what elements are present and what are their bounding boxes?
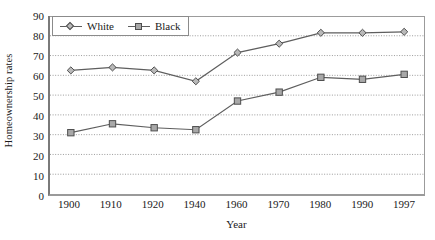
data-point-marker[interactable] xyxy=(359,76,365,82)
series-black xyxy=(68,71,408,136)
x-axis-tick-label: 1940 xyxy=(184,199,206,210)
x-axis-tick-label: 1980 xyxy=(309,199,331,210)
data-point-marker[interactable] xyxy=(68,130,74,136)
y-axis-tick-label: 60 xyxy=(33,71,44,82)
data-point-marker[interactable] xyxy=(109,121,115,127)
y-axis-tick-label: 80 xyxy=(33,31,44,42)
y-axis-tick-label: 30 xyxy=(33,131,44,142)
data-point-marker[interactable] xyxy=(151,67,158,74)
y-axis-tick-label: 50 xyxy=(33,91,44,102)
diamond-marker-icon xyxy=(60,22,82,31)
y-axis-tick-label: 70 xyxy=(33,51,44,62)
y-axis-tick-label: 90 xyxy=(33,11,44,22)
x-axis-tick-label: 1997 xyxy=(393,199,415,210)
data-point-marker[interactable] xyxy=(234,49,241,56)
legend-entry-white[interactable]: White xyxy=(60,21,114,32)
data-point-marker[interactable] xyxy=(318,74,324,80)
data-point-marker[interactable] xyxy=(359,29,366,36)
x-axis-tick-label: 1990 xyxy=(351,199,373,210)
line-chart: Homeownership rates 9080706050403020100 … xyxy=(0,0,435,240)
y-axis-tick-label: 10 xyxy=(33,171,44,182)
legend-entry-black[interactable]: Black xyxy=(128,21,181,32)
y-axis-title: Homeownership rates xyxy=(0,0,18,200)
y-axis-tick-label: 20 xyxy=(33,151,44,162)
legend-label-white: White xyxy=(85,21,114,32)
data-point-marker[interactable] xyxy=(67,67,74,74)
square-marker-icon xyxy=(128,22,150,31)
y-axis-title-label: Homeownership rates xyxy=(4,53,15,147)
x-axis-tick-label: 1960 xyxy=(226,199,248,210)
data-point-marker[interactable] xyxy=(109,64,116,71)
data-point-marker[interactable] xyxy=(401,28,408,35)
legend-label-black: Black xyxy=(153,21,181,32)
plot-svg xyxy=(50,16,425,194)
data-point-marker[interactable] xyxy=(401,71,407,77)
data-point-marker[interactable] xyxy=(151,125,157,131)
data-point-marker[interactable] xyxy=(193,127,199,133)
x-axis-title: Year xyxy=(48,218,425,230)
x-axis-tick-label: 1970 xyxy=(267,199,289,210)
y-axis-tick-label: 40 xyxy=(33,111,44,122)
legend: White Black xyxy=(52,16,189,36)
data-point-marker[interactable] xyxy=(317,29,324,36)
data-point-marker[interactable] xyxy=(276,40,283,47)
x-axis-tick-labels: 190019101920194019601970198019901997 xyxy=(48,199,425,215)
x-axis-tick-label: 1900 xyxy=(58,199,80,210)
series-white xyxy=(67,28,407,85)
y-axis-tick-labels: 9080706050403020100 xyxy=(18,0,48,200)
data-point-marker[interactable] xyxy=(276,89,282,95)
plot-area xyxy=(48,16,425,196)
y-axis-tick-label: 0 xyxy=(39,191,45,202)
x-axis-tick-label: 1910 xyxy=(100,199,122,210)
data-point-marker[interactable] xyxy=(192,78,199,85)
x-axis-title-label: Year xyxy=(226,218,246,230)
data-point-marker[interactable] xyxy=(234,98,240,104)
x-axis-tick-label: 1920 xyxy=(142,199,164,210)
